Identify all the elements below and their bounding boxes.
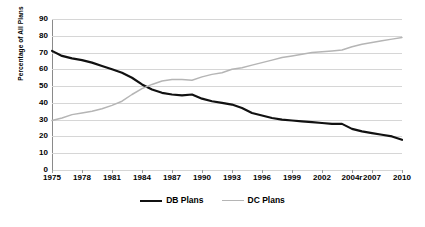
x-axis-tick-label: 1996 <box>245 173 279 183</box>
x-axis-tick-mark <box>172 170 173 173</box>
x-axis-tick-label: 1987 <box>155 173 189 183</box>
x-axis-tick-label: 1993 <box>215 173 249 183</box>
x-axis-tick-label: 1975 <box>35 173 69 183</box>
x-axis-tick-mark <box>372 170 373 173</box>
x-axis-tick-label: 2002 <box>305 173 339 183</box>
x-axis-tick-mark <box>202 170 203 173</box>
legend-item-dc-plans: DC Plans <box>222 196 285 205</box>
x-axis-tick-label: 2010 <box>385 173 419 183</box>
series-line-dc-plans <box>52 37 402 120</box>
x-axis-tick-mark <box>292 170 293 173</box>
x-axis-tick-mark <box>52 170 53 173</box>
x-axis-tick-mark <box>322 170 323 173</box>
legend-swatch-dc-plans <box>222 200 244 201</box>
x-axis-tick-mark <box>232 170 233 173</box>
legend-swatch-db-plans <box>140 200 162 202</box>
series-line-db-plans <box>52 51 402 140</box>
x-axis-tick-label: 1999 <box>275 173 309 183</box>
x-axis-tick-label: 2007 <box>355 173 389 183</box>
x-axis-tick-mark <box>262 170 263 173</box>
chart-legend: DB Plans DC Plans <box>0 196 425 205</box>
x-axis-tick-mark <box>352 170 353 173</box>
series-lines <box>0 0 425 227</box>
x-axis-tick-mark <box>142 170 143 173</box>
x-axis-tick-labels: 1975197819811984198719901993199619992002… <box>0 173 425 187</box>
x-axis-tick-label: 1978 <box>65 173 99 183</box>
legend-label-dc-plans: DC Plans <box>248 196 285 205</box>
x-axis-tick-label: 1981 <box>95 173 129 183</box>
line-chart: Percentage of All Plans 9080706050403020… <box>0 0 425 227</box>
x-axis-tick-mark <box>82 170 83 173</box>
legend-label-db-plans: DB Plans <box>166 196 203 205</box>
legend-item-db-plans: DB Plans <box>140 196 203 205</box>
x-axis-tick-label: 1984 <box>125 173 159 183</box>
x-axis-tick-mark <box>402 170 403 173</box>
x-axis-tick-mark <box>112 170 113 173</box>
x-axis-tick-label: 1990 <box>185 173 219 183</box>
